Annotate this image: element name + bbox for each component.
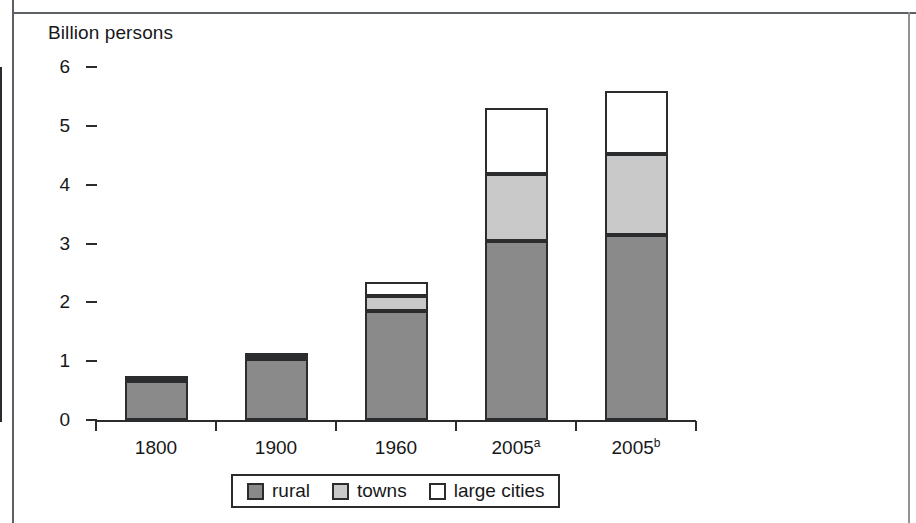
bar-2005b[interactable] <box>605 67 668 420</box>
y-axis-line <box>0 67 2 422</box>
x-axis-tick <box>575 421 577 431</box>
figure-frame-left <box>12 0 14 523</box>
x-axis-tick <box>455 421 457 431</box>
x-axis-label: 2005b <box>566 437 706 459</box>
bar-segment-towns[interactable] <box>365 296 428 311</box>
bar-segment-rural[interactable] <box>245 359 308 420</box>
x-axis-label: 2005a <box>446 437 586 459</box>
y-axis-tick-label: 0 <box>36 409 70 431</box>
bar-1900[interactable] <box>245 67 308 420</box>
x-axis-tick <box>95 421 97 431</box>
legend-swatch-icon <box>247 483 264 500</box>
y-axis-tick-label: 4 <box>36 174 70 196</box>
x-axis-tick <box>695 421 697 431</box>
chart-legend: ruraltownslarge cities <box>231 474 560 508</box>
bar-segment-large-cities[interactable] <box>245 353 308 357</box>
bar-segment-towns[interactable] <box>485 174 548 241</box>
bar-1960[interactable] <box>365 67 428 420</box>
y-axis-tick-label: 5 <box>36 115 70 137</box>
bar-segment-rural[interactable] <box>125 381 188 420</box>
x-axis-tick <box>215 421 217 431</box>
legend-swatch-icon <box>332 483 349 500</box>
x-axis-label: 1900 <box>206 437 346 459</box>
x-axis-label: 1960 <box>326 437 466 459</box>
bar-segment-towns[interactable] <box>605 154 668 235</box>
plot-area <box>96 67 693 420</box>
legend-item-rural[interactable]: rural <box>247 480 310 502</box>
x-axis-label: 1800 <box>86 437 226 459</box>
legend-item-towns[interactable]: towns <box>332 480 407 502</box>
bar-1800[interactable] <box>125 67 188 420</box>
bar-segment-large-cities[interactable] <box>365 282 428 296</box>
legend-label: towns <box>357 480 407 502</box>
figure-frame-top <box>12 12 916 14</box>
bar-2005a[interactable] <box>485 67 548 420</box>
x-axis-line <box>96 420 696 422</box>
bar-segment-large-cities[interactable] <box>485 108 548 174</box>
y-axis-tick-label: 6 <box>36 56 70 78</box>
legend-label: large cities <box>454 480 545 502</box>
legend-label: rural <box>272 480 310 502</box>
bar-segment-large-cities[interactable] <box>125 376 188 380</box>
x-axis-tick <box>335 421 337 431</box>
figure-frame-right <box>908 12 910 523</box>
y-axis-title: Billion persons <box>48 22 173 44</box>
y-axis-tick-label: 3 <box>36 233 70 255</box>
y-axis-tick-label: 2 <box>36 291 70 313</box>
y-axis-tick-label: 1 <box>36 350 70 372</box>
bar-segment-large-cities[interactable] <box>605 91 668 155</box>
bar-segment-rural[interactable] <box>605 235 668 420</box>
legend-swatch-icon <box>429 483 446 500</box>
legend-item-large-cities[interactable]: large cities <box>429 480 545 502</box>
bar-segment-rural[interactable] <box>365 311 428 420</box>
chart-figure: Billion persons 0123456 1800190019602005… <box>0 0 916 523</box>
bar-segment-rural[interactable] <box>485 241 548 420</box>
